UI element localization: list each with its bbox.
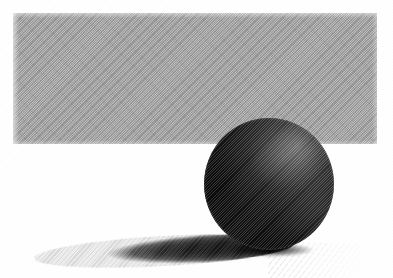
sphere-edge-feather xyxy=(204,118,334,250)
image-canvas: Dark sphere resting on a surface in fron… xyxy=(0,0,393,278)
dark-sphere: Dark sphere with highlight on upper righ… xyxy=(204,118,334,250)
scene-caption: Dark sphere resting on a surface in fron… xyxy=(0,0,1,1)
shadow-caption: Long cast shadow extending left xyxy=(33,243,34,244)
